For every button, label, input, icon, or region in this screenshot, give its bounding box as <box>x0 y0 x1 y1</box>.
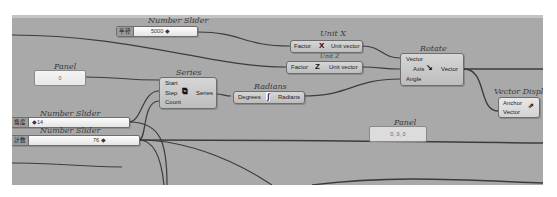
unit-z-icon: Z <box>315 62 320 71</box>
panel-left[interactable]: 0 <box>34 70 86 86</box>
panel-left-content: 0 <box>58 75 61 81</box>
vector-display-input-anchor[interactable]: Anchor <box>503 100 522 106</box>
rotate-input-angle[interactable]: Angle <box>406 76 421 82</box>
wire-unitz-to-rotate <box>362 67 400 69</box>
unitx-input-factor[interactable]: Factor <box>294 43 311 49</box>
rotate-component[interactable]: Vector Axis Angle ↘ Vector <box>400 53 464 86</box>
series-title: Series <box>176 68 201 77</box>
rotate-input-axis[interactable]: Axis <box>413 66 424 72</box>
slider-radius-value[interactable]: 5000 ◆ <box>151 27 170 36</box>
series-input-count[interactable]: Count <box>165 99 181 105</box>
rotate-icon: ↘ <box>426 63 433 72</box>
wire-unitx-to-rotate <box>362 46 400 58</box>
slider-top-title: Number Slider <box>148 16 208 25</box>
radians-input-degrees[interactable]: Degrees <box>238 94 261 100</box>
vector-display-input-vector[interactable]: Vector <box>503 109 520 115</box>
slider-angle-label: 角度 <box>12 118 29 127</box>
wire-slider-to-unitx <box>198 32 290 46</box>
unitx-title: Unit X <box>320 29 346 38</box>
vector-display-title: Vector Display <box>494 87 543 96</box>
slider-count-value[interactable]: 76 ◆ <box>93 136 106 145</box>
radians-icon: ∫ <box>266 92 270 101</box>
series-input-step[interactable]: Step <box>165 90 177 96</box>
radians-title: Radians <box>254 82 287 91</box>
slider-count-title: Number Slider <box>40 126 100 135</box>
panel-right-content: 0, 0, 0 <box>390 131 405 137</box>
wire-radians-to-rotate <box>302 79 400 96</box>
vector-display-icon: ⇗ <box>528 102 534 110</box>
slider-count-label: 計数 <box>12 136 29 145</box>
unit-x-icon: X <box>319 41 324 50</box>
vector-display-component[interactable]: Anchor Vector ⇗ <box>498 97 540 118</box>
slider-radius[interactable]: 半径 5000 ◆ <box>116 26 198 37</box>
series-icon: ⧉ <box>182 87 188 97</box>
radians-output[interactable]: Radians <box>278 94 300 100</box>
rotate-output-vector[interactable]: Vector <box>441 66 458 72</box>
grasshopper-canvas[interactable]: Number Slider 半径 5000 ◆ Unit X Factor X … <box>12 15 543 185</box>
rotate-title: Rotate <box>420 44 447 53</box>
unitz-input-factor[interactable]: Factor <box>291 64 308 70</box>
series-input-start[interactable]: Start <box>165 80 178 86</box>
series-output[interactable]: Series <box>196 90 213 96</box>
slider-radius-label: 半径 <box>117 27 134 36</box>
unitx-output[interactable]: Unit vector <box>331 43 360 49</box>
unitz-component[interactable]: Factor Z Unit vector <box>286 61 363 74</box>
series-component[interactable]: Start Step Count ⧉ Series <box>159 77 217 109</box>
rotate-input-vector[interactable]: Vector <box>406 56 423 62</box>
unitz-title: Unit Z <box>320 52 339 59</box>
slider-count[interactable]: 計数 76 ◆ <box>12 135 140 146</box>
panel-right[interactable]: 0, 0, 0 <box>369 126 427 142</box>
unitz-output[interactable]: Unit vector <box>329 64 358 70</box>
radians-component[interactable]: Degrees ∫ Radians <box>233 91 305 104</box>
